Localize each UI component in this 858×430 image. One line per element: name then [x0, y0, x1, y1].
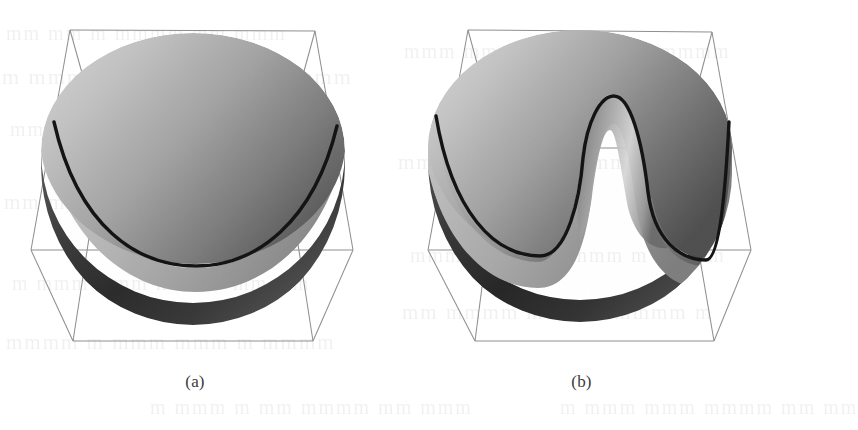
box-edge-back-top — [70, 30, 315, 31]
panel-a: (a) — [0, 0, 390, 430]
box-edge-front-left-vertical — [31, 250, 73, 341]
box-edge-front-right-vertical — [714, 250, 751, 341]
box-edge-front-right-vertical — [313, 250, 353, 341]
bowl-surface — [41, 33, 345, 329]
single-well-surface-plot — [0, 0, 390, 380]
caption-b: (b) — [390, 372, 773, 392]
caption-a: (a) — [0, 372, 390, 392]
panel-b: (b) — [390, 0, 773, 430]
double-well-surface-plot — [390, 0, 773, 380]
